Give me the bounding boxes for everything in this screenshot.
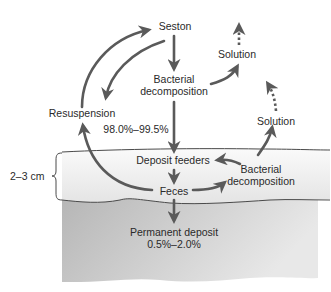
label-solution-upper: Solution bbox=[218, 48, 256, 60]
label-bacterial-line2: decomposition bbox=[140, 85, 208, 97]
label-percent-recycled: 98.0%–99.5% bbox=[103, 123, 168, 135]
label-seston: Seston bbox=[159, 20, 192, 32]
label-bacterial-decomposition-water: Bacterial decomposition bbox=[140, 73, 208, 97]
arrow-resuspension-to-seston bbox=[82, 30, 148, 107]
label-bacterial-decomposition-sediment: Bacterial decomposition bbox=[227, 163, 295, 187]
label-resuspension: Resuspension bbox=[49, 107, 116, 119]
label-depth-scale: 2–3 cm bbox=[10, 170, 44, 182]
label-feces: Feces bbox=[160, 185, 189, 197]
label-percent-permanent: 0.5%–2.0% bbox=[130, 238, 218, 250]
label-solution-lower: Solution bbox=[257, 115, 295, 127]
depth-brace-icon bbox=[52, 153, 62, 200]
label-bacterial-sed-line1: Bacterial bbox=[227, 163, 295, 175]
label-bacterial-line1: Bacterial bbox=[140, 73, 208, 85]
arrow-bacterial-to-solution bbox=[211, 67, 237, 84]
label-permanent-deposit: Permanent deposit 0.5%–2.0% bbox=[130, 226, 218, 250]
label-bacterial-sed-line2: decomposition bbox=[227, 175, 295, 187]
label-permanent-deposit-text: Permanent deposit bbox=[130, 226, 218, 238]
dotted-arrow-lower-solution bbox=[268, 84, 276, 111]
label-deposit-feeders: Deposit feeders bbox=[136, 154, 210, 166]
